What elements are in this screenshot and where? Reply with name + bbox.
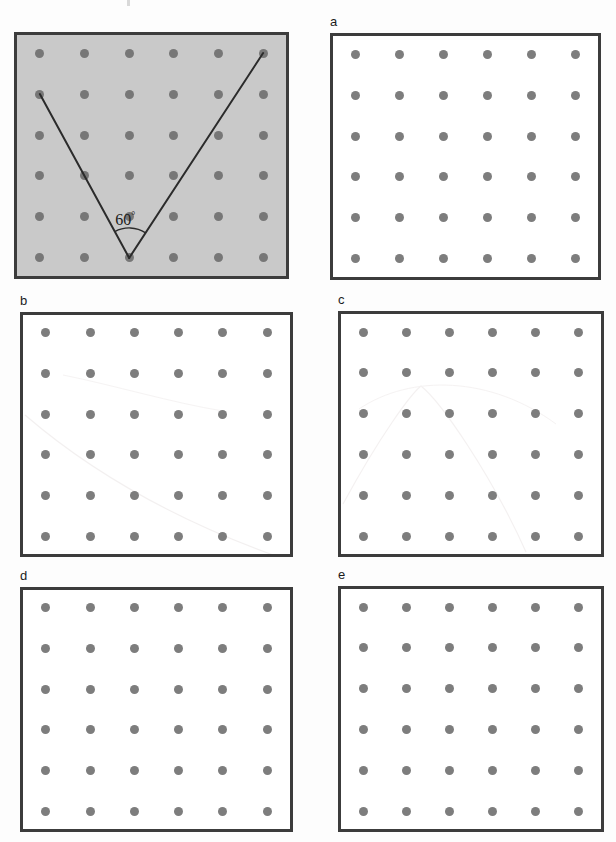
peg-dot[interactable]	[218, 410, 227, 419]
peg-dot[interactable]	[483, 254, 492, 263]
peg-dot[interactable]	[125, 90, 134, 99]
peg-dot[interactable]	[86, 328, 95, 337]
peg-dot[interactable]	[445, 766, 454, 775]
peg-dot[interactable]	[130, 603, 139, 612]
peg-dot[interactable]	[359, 368, 368, 377]
peg-dot[interactable]	[41, 328, 50, 337]
peg-dot[interactable]	[445, 450, 454, 459]
peg-dot[interactable]	[571, 91, 580, 100]
peg-dot[interactable]	[80, 131, 89, 140]
peg-dot[interactable]	[214, 171, 223, 180]
peg-dot[interactable]	[80, 212, 89, 221]
peg-dot[interactable]	[488, 368, 497, 377]
peg-dot[interactable]	[574, 409, 583, 418]
peg-dot[interactable]	[80, 90, 89, 99]
peg-dot[interactable]	[263, 807, 272, 816]
peg-dot[interactable]	[359, 807, 368, 816]
peg-dot[interactable]	[359, 684, 368, 693]
peg-dot[interactable]	[395, 213, 404, 222]
peg-dot[interactable]	[130, 328, 139, 337]
peg-dot[interactable]	[259, 171, 268, 180]
peg-dot[interactable]	[86, 725, 95, 734]
peg-dot[interactable]	[351, 132, 360, 141]
peg-dot[interactable]	[402, 409, 411, 418]
geoboard-panel-d[interactable]	[20, 587, 293, 832]
peg-dot[interactable]	[218, 369, 227, 378]
peg-dot[interactable]	[574, 450, 583, 459]
peg-dot[interactable]	[86, 410, 95, 419]
peg-dot[interactable]	[574, 684, 583, 693]
peg-dot[interactable]	[488, 766, 497, 775]
peg-dot[interactable]	[402, 643, 411, 652]
peg-dot[interactable]	[531, 603, 540, 612]
peg-dot[interactable]	[263, 491, 272, 500]
peg-dot[interactable]	[571, 213, 580, 222]
geoboard-panel-a[interactable]	[330, 33, 601, 280]
peg-dot[interactable]	[574, 368, 583, 377]
peg-dot[interactable]	[359, 725, 368, 734]
peg-dot[interactable]	[488, 643, 497, 652]
peg-dot[interactable]	[86, 685, 95, 694]
peg-dot[interactable]	[359, 766, 368, 775]
peg-dot[interactable]	[359, 643, 368, 652]
peg-dot[interactable]	[351, 172, 360, 181]
peg-dot[interactable]	[359, 409, 368, 418]
peg-dot[interactable]	[483, 132, 492, 141]
peg-dot[interactable]	[169, 212, 178, 221]
peg-dot[interactable]	[86, 807, 95, 816]
peg-dot[interactable]	[214, 212, 223, 221]
peg-dot[interactable]	[359, 328, 368, 337]
geoboard-panel-question[interactable]: 60°	[14, 32, 289, 279]
peg-dot[interactable]	[263, 766, 272, 775]
peg-dot[interactable]	[169, 131, 178, 140]
peg-dot[interactable]	[402, 368, 411, 377]
peg-dot[interactable]	[41, 532, 50, 541]
peg-dot[interactable]	[439, 172, 448, 181]
peg-dot[interactable]	[259, 253, 268, 262]
peg-dot[interactable]	[263, 410, 272, 419]
peg-dot[interactable]	[531, 491, 540, 500]
peg-dot[interactable]	[571, 172, 580, 181]
peg-dot[interactable]	[395, 91, 404, 100]
peg-dot[interactable]	[531, 532, 540, 541]
peg-dot[interactable]	[130, 807, 139, 816]
peg-dot[interactable]	[488, 491, 497, 500]
peg-dot[interactable]	[35, 212, 44, 221]
peg-dot[interactable]	[402, 532, 411, 541]
peg-dot[interactable]	[395, 254, 404, 263]
peg-dot[interactable]	[439, 213, 448, 222]
peg-dot[interactable]	[402, 491, 411, 500]
peg-dot[interactable]	[263, 644, 272, 653]
peg-dot[interactable]	[488, 807, 497, 816]
peg-dot[interactable]	[35, 90, 44, 99]
peg-dot[interactable]	[130, 450, 139, 459]
peg-dot[interactable]	[174, 603, 183, 612]
peg-dot[interactable]	[439, 91, 448, 100]
peg-dot[interactable]	[445, 368, 454, 377]
peg-dot[interactable]	[445, 684, 454, 693]
geoboard-panel-c[interactable]	[338, 311, 604, 557]
peg-dot[interactable]	[259, 49, 268, 58]
peg-dot[interactable]	[130, 491, 139, 500]
peg-dot[interactable]	[574, 603, 583, 612]
peg-dot[interactable]	[445, 643, 454, 652]
peg-dot[interactable]	[174, 450, 183, 459]
peg-dot[interactable]	[263, 685, 272, 694]
peg-dot[interactable]	[395, 132, 404, 141]
peg-dot[interactable]	[531, 643, 540, 652]
peg-dot[interactable]	[527, 213, 536, 222]
peg-dot[interactable]	[174, 685, 183, 694]
peg-dot[interactable]	[402, 766, 411, 775]
peg-dot[interactable]	[531, 725, 540, 734]
peg-dot[interactable]	[174, 369, 183, 378]
peg-dot[interactable]	[214, 49, 223, 58]
peg-dot[interactable]	[488, 603, 497, 612]
peg-dot[interactable]	[174, 410, 183, 419]
peg-dot[interactable]	[483, 50, 492, 59]
peg-dot[interactable]	[483, 91, 492, 100]
peg-dot[interactable]	[169, 171, 178, 180]
peg-dot[interactable]	[174, 725, 183, 734]
peg-dot[interactable]	[259, 131, 268, 140]
peg-dot[interactable]	[445, 807, 454, 816]
peg-dot[interactable]	[41, 807, 50, 816]
